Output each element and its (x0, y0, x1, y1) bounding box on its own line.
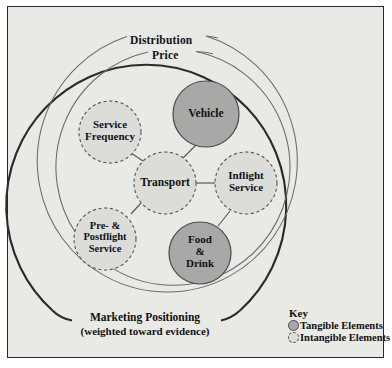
tangible-circle-icon (288, 320, 299, 331)
legend-title: Key (289, 307, 388, 319)
marketing-positioning-line1: Marketing Positioning (36, 311, 254, 325)
marketing-positioning-line2: (weighted toward evidence) (36, 325, 254, 338)
diagram-root: Distribution Price Marketing Positioning… (0, 0, 392, 368)
legend-item-tangible: Tangible Elements (288, 320, 388, 331)
legend-label-intangible: Intangible Elements (300, 332, 390, 343)
diagram-frame (7, 6, 384, 358)
intangible-circle-icon (288, 332, 299, 343)
ring-label-distribution: Distribution (130, 34, 192, 46)
ring-label-marketing-positioning: Marketing Positioning (weighted toward e… (36, 311, 254, 338)
legend: Key Tangible Elements Intangible Element… (288, 307, 388, 343)
legend-item-intangible: Intangible Elements (288, 332, 388, 343)
ring-label-price: Price (152, 49, 179, 61)
legend-label-tangible: Tangible Elements (300, 320, 383, 331)
